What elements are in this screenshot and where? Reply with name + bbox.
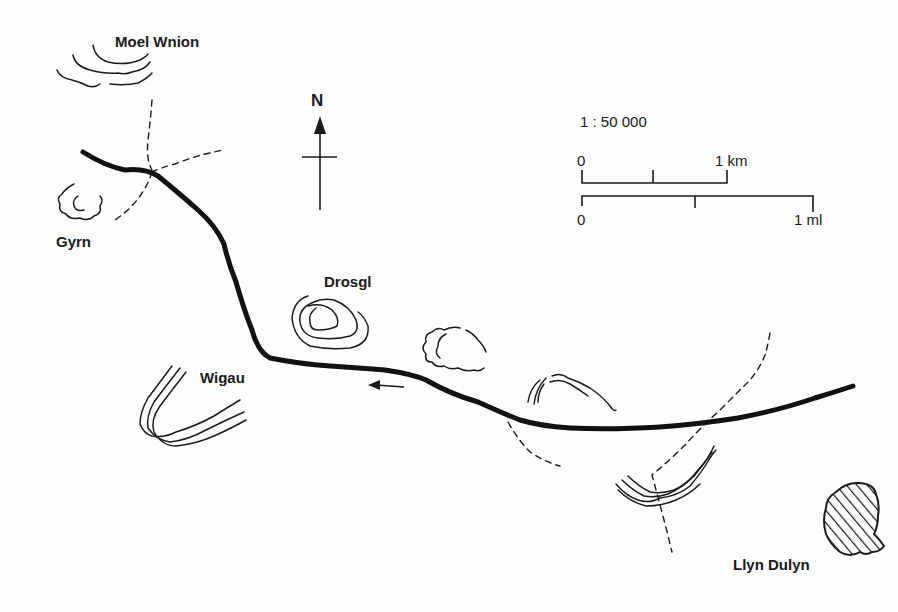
label-llyn-dulyn: Llyn Dulyn <box>733 556 810 573</box>
north-arrow-icon <box>302 116 337 210</box>
scale-ratio: 1 : 50 000 <box>580 113 647 130</box>
map-canvas: Moel Wnion Gyrn Drosgl <box>0 0 898 612</box>
drosgl-contours <box>292 296 368 349</box>
label-drosgl: Drosgl <box>324 273 372 290</box>
outcrop-2 <box>528 374 616 410</box>
mile-scale-start: 0 <box>577 211 585 228</box>
gyrn-contours <box>58 184 102 220</box>
km-scale-start: 0 <box>577 152 585 169</box>
footpaths <box>115 100 770 552</box>
lake-hatch-icon <box>824 483 884 555</box>
km-scale-end: 1 km <box>715 152 748 169</box>
scale-bar: 1 : 50 000 0 1 km 0 1 ml <box>577 113 822 228</box>
outcrop-1 <box>423 327 486 370</box>
label-wigau: Wigau <box>200 369 245 386</box>
moel-wnion-contours <box>57 45 152 87</box>
valley-contours <box>616 446 716 506</box>
mile-scale-end: 1 ml <box>794 211 822 228</box>
main-route <box>83 152 853 429</box>
sketch-map: Moel Wnion Gyrn Drosgl <box>0 0 898 612</box>
label-moel-wnion: Moel Wnion <box>115 33 199 50</box>
north-label: N <box>311 91 323 110</box>
label-gyrn: Gyrn <box>56 233 91 250</box>
direction-arrow-icon <box>368 380 404 390</box>
